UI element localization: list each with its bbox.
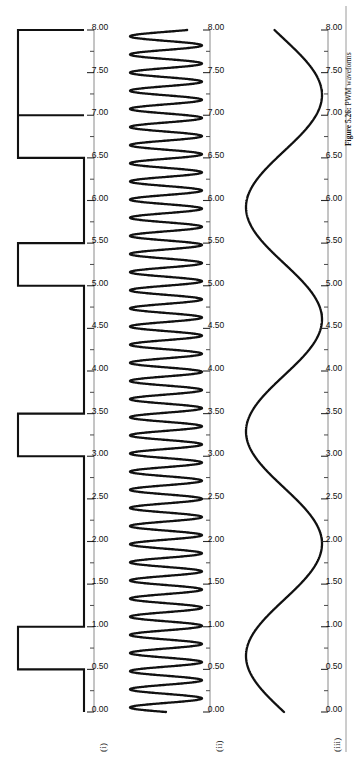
axis-tick-label: 1.00 bbox=[208, 619, 225, 629]
axis-tick-label: 4.50 bbox=[208, 320, 225, 330]
trace-row-ii: (ii) 0.000.501.001.502.002.503.003.504.0… bbox=[122, 0, 234, 758]
axis-tick-label: 0.50 bbox=[208, 661, 225, 671]
axis-tick-label: 2.00 bbox=[92, 534, 109, 544]
axis-tick-label: 4.50 bbox=[326, 320, 343, 330]
trace-ii-plot: 0.000.501.001.502.002.503.003.504.004.50… bbox=[122, 0, 234, 758]
axis-tick-label: 2.50 bbox=[326, 491, 343, 501]
axis-tick-label: 3.50 bbox=[326, 406, 343, 416]
axis-tick-label: 1.00 bbox=[326, 619, 343, 629]
axis-tick-label: 4.50 bbox=[92, 320, 109, 330]
trace-iii-plot: 0.000.501.001.502.002.503.003.504.004.50… bbox=[238, 0, 352, 758]
axis-tick-label: 1.50 bbox=[326, 576, 343, 586]
axis-tick-label: 7.00 bbox=[92, 107, 109, 117]
figure-rotated-group: (i) 0.000.501.001.502.002.503.003.504.00… bbox=[0, 0, 360, 758]
trace-row-iii: (iii) 0.000.501.001.502.002.503.003.504.… bbox=[238, 0, 352, 758]
axis-tick-label: 0.50 bbox=[326, 661, 343, 671]
axis-tick-label: 8.00 bbox=[326, 22, 343, 32]
axis-tick-label: 7.50 bbox=[326, 65, 343, 75]
trace-label-ii: (ii) bbox=[214, 740, 224, 752]
trace-i-path bbox=[18, 30, 84, 712]
axis-tick-label: 5.50 bbox=[326, 235, 343, 245]
axis-tick-label: 6.50 bbox=[208, 150, 225, 160]
axis-tick-label: 6.50 bbox=[326, 150, 343, 160]
axis-tick-label: 6.50 bbox=[92, 150, 109, 160]
axis-tick-label: 6.00 bbox=[208, 193, 225, 203]
figure-canvas: (i) 0.000.501.001.502.002.503.003.504.00… bbox=[0, 0, 360, 758]
axis-tick-label: 8.00 bbox=[208, 22, 225, 32]
axis-tick-label: 4.00 bbox=[208, 363, 225, 373]
caption-label: Figure 5.26: bbox=[344, 107, 353, 146]
trace-label-iii: (iii) bbox=[332, 738, 342, 753]
axis-tick-label: 1.50 bbox=[208, 576, 225, 586]
caption-text: PWM waveforms bbox=[344, 52, 353, 105]
axis-tick-label: 5.50 bbox=[92, 235, 109, 245]
axis-tick-label: 3.00 bbox=[326, 448, 343, 458]
axis-tick-label: 5.00 bbox=[326, 278, 343, 288]
axis-tick-label: 4.00 bbox=[92, 363, 109, 373]
axis-tick-label: 2.50 bbox=[92, 491, 109, 501]
axis-tick-label: 0.00 bbox=[208, 704, 225, 714]
axis-tick-label: 3.50 bbox=[208, 406, 225, 416]
axis-tick-label: 6.00 bbox=[326, 193, 343, 203]
axis-tick-label: 2.00 bbox=[208, 534, 225, 544]
trace-label-i: (i) bbox=[98, 743, 108, 752]
axis-tick-label: 8.00 bbox=[92, 22, 109, 32]
trace-row-i: (i) 0.000.501.001.502.002.503.003.504.00… bbox=[6, 0, 118, 758]
axis-tick-label: 3.50 bbox=[92, 406, 109, 416]
axis-tick-label: 0.00 bbox=[92, 704, 109, 714]
axis-tick-label: 5.00 bbox=[92, 278, 109, 288]
axis-tick-label: 1.50 bbox=[92, 576, 109, 586]
trace-ii-path bbox=[130, 30, 202, 712]
axis-tick-label: 4.00 bbox=[326, 363, 343, 373]
axis-tick-label: 2.00 bbox=[326, 534, 343, 544]
axis-tick-label: 5.00 bbox=[208, 278, 225, 288]
trace-i-plot: 0.000.501.001.502.002.503.003.504.004.50… bbox=[6, 0, 118, 758]
trace-iii-path bbox=[246, 30, 322, 712]
axis-tick-label: 7.00 bbox=[208, 107, 225, 117]
axis-tick-label: 5.50 bbox=[208, 235, 225, 245]
axis-tick-label: 7.50 bbox=[208, 65, 225, 75]
axis-tick-label: 2.50 bbox=[208, 491, 225, 501]
axis-tick-label: 7.00 bbox=[326, 107, 343, 117]
axis-tick-label: 3.00 bbox=[92, 448, 109, 458]
figure-caption: Figure 5.26: PWM waveforms bbox=[344, 52, 353, 146]
axis-tick-label: 0.00 bbox=[326, 704, 343, 714]
axis-tick-label: 3.00 bbox=[208, 448, 225, 458]
axis-tick-label: 0.50 bbox=[92, 661, 109, 671]
axis-tick-label: 7.50 bbox=[92, 65, 109, 75]
axis-tick-label: 6.00 bbox=[92, 193, 109, 203]
axis-tick-label: 1.00 bbox=[92, 619, 109, 629]
